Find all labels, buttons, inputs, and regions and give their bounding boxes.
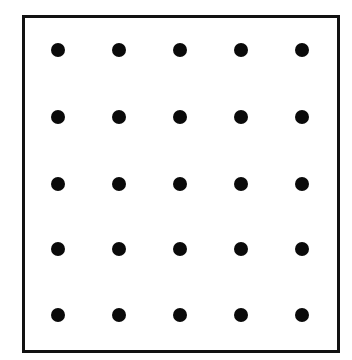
dot-r2-c1 bbox=[51, 110, 65, 124]
dot-r1-c4 bbox=[234, 43, 248, 57]
dot-r2-c4 bbox=[234, 110, 248, 124]
dot-r5-c1 bbox=[51, 308, 65, 322]
dot-r5-c3 bbox=[173, 308, 187, 322]
dot-r2-c3 bbox=[173, 110, 187, 124]
dot-r3-c5 bbox=[295, 177, 309, 191]
dot-r1-c1 bbox=[51, 43, 65, 57]
dot-r4-c1 bbox=[51, 242, 65, 256]
dot-r4-c4 bbox=[234, 242, 248, 256]
dot-r4-c5 bbox=[295, 242, 309, 256]
dot-r1-c3 bbox=[173, 43, 187, 57]
dot-r1-c2 bbox=[112, 43, 126, 57]
dot-r5-c2 bbox=[112, 308, 126, 322]
dot-r2-c5 bbox=[295, 110, 309, 124]
dot-r3-c2 bbox=[112, 177, 126, 191]
dot-r5-c4 bbox=[234, 308, 248, 322]
dot-r5-c5 bbox=[295, 308, 309, 322]
dot-r3-c1 bbox=[51, 177, 65, 191]
dot-r4-c3 bbox=[173, 242, 187, 256]
dot-r1-c5 bbox=[295, 43, 309, 57]
dot-r2-c2 bbox=[112, 110, 126, 124]
dot-r4-c2 bbox=[112, 242, 126, 256]
dot-r3-c4 bbox=[234, 177, 248, 191]
dot-r3-c3 bbox=[173, 177, 187, 191]
